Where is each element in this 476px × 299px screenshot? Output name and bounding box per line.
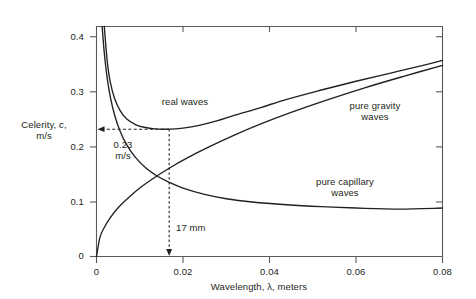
y-tick-label-0.3: 0.3 (44, 86, 84, 97)
y-axis-title-prefix: Celerity, (21, 119, 59, 130)
series-label-pure-gravity-waves: pure gravity waves (330, 100, 420, 122)
x-tick-label-0: 0 (77, 266, 117, 277)
arrowhead-to-y-axis (98, 126, 105, 132)
top-frame-ticks (183, 27, 356, 33)
y-axis-ticks (90, 37, 97, 257)
series-label-pure-gravity-waves-line1: pure gravity (350, 100, 401, 111)
x-tick-label-0.06: 0.06 (336, 266, 376, 277)
x-tick-label-0.04: 0.04 (250, 266, 290, 277)
y-axis-title: Celerity, c, m/s (0, 119, 88, 141)
series-label-pure-capillary-waves: pure capillary waves (297, 176, 393, 198)
y-axis-title-line2: m/s (36, 130, 52, 141)
annotation-min-celerity-value: 0.23 (114, 139, 133, 150)
y-tick-label-0.2: 0.2 (44, 141, 84, 152)
annotation-min-wavelength: 17 mm (176, 222, 206, 233)
series-label-pure-capillary-waves-line1: pure capillary (316, 176, 374, 187)
x-tick-label-0.02: 0.02 (163, 266, 203, 277)
y-tick-label-0.4: 0.4 (44, 31, 84, 42)
y-axis-title-line1: Celerity, c, (21, 119, 66, 130)
annotation-min-celerity-unit: m/s (115, 150, 131, 161)
curve-pure-gravity-waves (97, 65, 443, 256)
annotation-min-celerity: 0.23 m/s (100, 139, 146, 161)
series-label-pure-capillary-waves-line2: waves (331, 187, 358, 198)
y-tick-label-0.1: 0.1 (44, 196, 84, 207)
series-label-real-waves: real waves (145, 96, 225, 107)
x-tick-label-0.08: 0.08 (423, 266, 463, 277)
x-axis-title: Wavelength, λ, meters (169, 281, 349, 292)
series-label-pure-gravity-waves-line2: waves (361, 111, 388, 122)
celerity-vs-wavelength-chart: 0.4 0.3 0.2 0.1 0 0 0.02 0.04 0.06 0.08 … (0, 0, 476, 299)
arrowhead-to-x-axis (166, 249, 172, 256)
y-axis-title-comma: , (64, 119, 67, 130)
axis-frame (97, 26, 443, 257)
y-tick-label-0: 0 (44, 250, 84, 261)
data-curves (97, 27, 443, 257)
